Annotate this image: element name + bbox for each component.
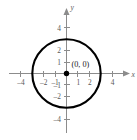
y-tick-label--2: –2 (53, 92, 62, 101)
x-tick-label-4: 4 (111, 78, 115, 87)
x-tick-label--4: –4 (16, 78, 25, 87)
origin-point-marker (64, 71, 69, 76)
x-axis-arrow-icon (123, 71, 130, 77)
y-tick-label-1: 1 (57, 58, 61, 67)
x-tick-label-2: 2 (88, 78, 92, 87)
x-tick-label--2: –2 (39, 78, 48, 87)
y-tick-label-2: 2 (57, 46, 61, 55)
y-axis-label: y (70, 3, 75, 12)
coordinate-plane: –4 –2 –1 1 2 4 4 2 1 –1 –2 –4 x y (0, 0) (0, 0, 137, 140)
y-tick-label--1: –1 (53, 81, 62, 90)
x-axis-label: x (131, 70, 136, 79)
y-tick-label--4: –4 (53, 115, 62, 124)
circle-graph-figure: –4 –2 –1 1 2 4 4 2 1 –1 –2 –4 x y (0, 0) (0, 0, 137, 140)
y-tick-label-4: 4 (57, 24, 61, 33)
x-tick-label-1: 1 (77, 78, 81, 87)
origin-point-label: (0, 0) (72, 60, 90, 69)
y-axis-arrow-icon (64, 8, 70, 15)
